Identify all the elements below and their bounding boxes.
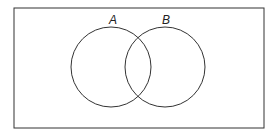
set-a-circle (71, 27, 151, 107)
set-b-circle (125, 27, 205, 107)
set-a-label: A (108, 13, 117, 27)
venn-diagram: A B (0, 0, 278, 137)
universe-rectangle (14, 8, 264, 128)
set-b-label: B (162, 13, 170, 27)
